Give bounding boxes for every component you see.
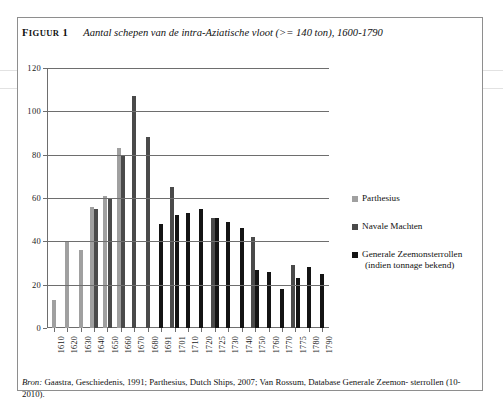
y-tick-label: 100 xyxy=(27,106,41,116)
bar xyxy=(251,237,255,328)
x-tick-label: 1630 xyxy=(84,336,93,353)
legend-item[interactable]: Parthesius xyxy=(352,193,480,204)
bar xyxy=(307,267,311,328)
x-tick-mark xyxy=(269,328,270,332)
figure-title: Aantal schepen van de intra-Aziatische v… xyxy=(83,27,383,38)
x-tick-label: 1670 xyxy=(137,336,146,353)
x-tick-mark xyxy=(188,328,189,332)
x-tick-mark xyxy=(148,328,149,332)
x-tick-mark xyxy=(309,328,310,332)
bar xyxy=(90,207,94,328)
bar xyxy=(132,96,136,328)
bar xyxy=(291,265,295,328)
bar xyxy=(240,228,244,328)
x-tick-mark xyxy=(215,328,216,332)
y-tick-mark xyxy=(43,241,47,242)
gridline xyxy=(47,241,329,242)
legend-sublabel: (indien tonnage bekend) xyxy=(365,260,462,271)
gridline xyxy=(47,285,329,286)
bar xyxy=(52,300,56,328)
x-tick-label: 1770 xyxy=(285,336,294,353)
figure-header: FIGUUR 1Aantal schepen van de intra-Azia… xyxy=(22,22,452,40)
y-tick-label: 40 xyxy=(32,236,41,246)
bar xyxy=(94,209,98,328)
bar xyxy=(186,213,190,328)
bar xyxy=(108,198,112,328)
x-tick-mark xyxy=(121,328,122,332)
bar xyxy=(159,224,163,328)
x-tick-mark xyxy=(175,328,176,332)
bar xyxy=(103,196,107,328)
x-tick-mark xyxy=(228,328,229,332)
gridline xyxy=(47,198,329,199)
y-tick-label: 80 xyxy=(32,150,41,160)
legend-swatch-icon xyxy=(352,196,358,202)
x-tick-label: 1720 xyxy=(205,336,214,353)
y-tick-label: 60 xyxy=(32,193,41,203)
legend-item[interactable]: Navale Machten xyxy=(352,221,480,232)
x-tick-label: 1701 xyxy=(178,336,187,353)
x-tick-label: 1680 xyxy=(151,336,160,353)
gridline xyxy=(47,111,329,112)
y-tick-mark xyxy=(43,285,47,286)
x-tick-mark xyxy=(67,328,68,332)
y-tick-mark xyxy=(43,68,47,69)
bar xyxy=(280,289,284,328)
x-tick-mark xyxy=(255,328,256,332)
gridline xyxy=(47,68,329,69)
x-tick-label: 1725 xyxy=(218,336,227,353)
x-tick-label: 1691 xyxy=(164,336,173,353)
y-tick-mark xyxy=(43,155,47,156)
y-tick-mark xyxy=(43,111,47,112)
bar xyxy=(175,215,179,328)
x-tick-mark xyxy=(134,328,135,332)
x-tick-label: 1750 xyxy=(258,336,267,353)
bar xyxy=(79,250,83,328)
source-note-line1: Gaastra, Geschiedenis, 1991; Parthesius,… xyxy=(44,377,408,387)
x-tick-label: 1740 xyxy=(245,336,254,353)
bar xyxy=(226,222,230,328)
legend-swatch-icon xyxy=(352,252,358,258)
bar xyxy=(170,187,174,328)
x-tick-label: 1760 xyxy=(272,336,281,353)
x-tick-mark xyxy=(81,328,82,332)
bar xyxy=(267,272,271,328)
bar xyxy=(146,137,150,328)
y-tick-mark xyxy=(43,198,47,199)
x-tick-label: 1650 xyxy=(111,336,120,353)
source-note: Bron: Gaastra, Geschiedenis, 1991; Parth… xyxy=(22,377,477,400)
legend-item[interactable]: Generale Zeemonsterrollen(indien tonnage… xyxy=(352,249,480,271)
x-tick-label: 1610 xyxy=(57,336,66,353)
legend-label: Parthesius xyxy=(362,193,400,204)
y-tick-label: 20 xyxy=(32,280,41,290)
source-note-prefix: Bron: xyxy=(22,377,42,387)
x-tick-mark xyxy=(94,328,95,332)
x-tick-mark xyxy=(242,328,243,332)
x-tick-label: 1790 xyxy=(325,336,334,353)
x-tick-label: 1640 xyxy=(97,336,106,353)
x-tick-label: 1620 xyxy=(70,336,79,353)
y-tick-label: 0 xyxy=(36,323,41,333)
x-tick-mark xyxy=(54,328,55,332)
bar xyxy=(211,218,215,329)
x-tick-label: 1780 xyxy=(312,336,321,353)
x-tick-mark xyxy=(322,328,323,332)
figure-label: FIGUUR 1 xyxy=(22,27,68,38)
bar xyxy=(199,209,203,328)
y-tick-label: 120 xyxy=(27,63,41,73)
legend-label: Navale Machten xyxy=(362,221,422,232)
gridline xyxy=(47,155,329,156)
legend-label: Generale Zeemonsterrollen(indien tonnage… xyxy=(362,249,462,271)
bar xyxy=(117,148,121,328)
bar xyxy=(255,270,259,329)
x-tick-label: 1775 xyxy=(299,336,308,353)
chart-legend: ParthesiusNavale MachtenGenerale Zeemons… xyxy=(352,193,480,288)
x-tick-mark xyxy=(282,328,283,332)
y-tick-mark xyxy=(43,328,47,329)
bar xyxy=(320,274,324,328)
x-tick-mark xyxy=(201,328,202,332)
x-tick-label: 1660 xyxy=(124,336,133,353)
x-tick-mark xyxy=(295,328,296,332)
x-tick-label: 1730 xyxy=(231,336,240,353)
chart-plot-area: 020406080100120 161016201630164016501660… xyxy=(47,68,329,328)
